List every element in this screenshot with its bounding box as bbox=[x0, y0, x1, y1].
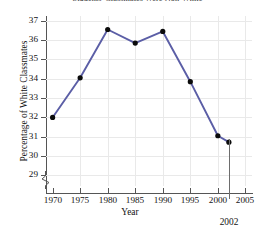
data-point-marker: 1980: 36.55 bbox=[105, 27, 110, 32]
y-axis-tick bbox=[41, 156, 46, 157]
series-polyline bbox=[53, 30, 229, 143]
y-axis-break-symbol bbox=[40, 170, 52, 190]
y-axis-tick-label: 35 bbox=[16, 54, 38, 63]
y-axis-tick bbox=[41, 117, 46, 118]
y-axis-tick bbox=[41, 98, 46, 99]
y-axis-tick-label: 36 bbox=[16, 35, 38, 44]
y-axis-tick bbox=[41, 79, 46, 80]
chart-title: Students' Classmates Were Non-White bbox=[0, 0, 275, 1]
y-axis-tick-label: 32 bbox=[16, 112, 38, 121]
y-axis-tick-label: 31 bbox=[16, 132, 38, 141]
x-axis-tick bbox=[163, 188, 164, 194]
x-axis-label: Year bbox=[95, 207, 165, 217]
data-series-line: 1970: 321975: 34.051980: 36.551985: 35.8… bbox=[46, 16, 252, 186]
year-2002-annotation-label: 2002 bbox=[209, 217, 249, 227]
data-point-marker: 1985: 35.85 bbox=[133, 40, 138, 45]
y-axis-tick-label: 37 bbox=[16, 16, 38, 25]
x-axis-tick bbox=[80, 188, 81, 194]
y-axis-tick-label: 29 bbox=[16, 170, 38, 179]
y-axis-tick bbox=[41, 21, 46, 22]
year-2002-marker-line bbox=[229, 139, 230, 199]
x-axis-line bbox=[46, 193, 253, 194]
x-axis-tick bbox=[108, 188, 109, 194]
x-axis-tick bbox=[245, 188, 246, 194]
chart-figure: Students' Classmates Were Non-White Perc… bbox=[0, 0, 275, 236]
plot-area: 1970: 321975: 34.051980: 36.551985: 35.8… bbox=[46, 16, 252, 186]
data-point-marker: 2000: 31.05 bbox=[215, 133, 220, 138]
x-axis-tick bbox=[135, 188, 136, 194]
data-point-marker: 1990: 36.45 bbox=[160, 29, 165, 34]
x-axis-tick bbox=[218, 188, 219, 194]
y-axis-tick-label: 34 bbox=[16, 74, 38, 83]
y-axis-tick-label: 30 bbox=[16, 151, 38, 160]
x-axis-tick-label: 2005 bbox=[227, 195, 263, 205]
x-axis-tick bbox=[190, 188, 191, 194]
x-axis-tick bbox=[53, 188, 54, 194]
data-point-marker: 1975: 34.05 bbox=[78, 75, 83, 80]
data-point-marker: 1995: 33.85 bbox=[188, 79, 193, 84]
y-axis-tick bbox=[41, 40, 46, 41]
y-axis-tick bbox=[41, 59, 46, 60]
data-point-marker: 1970: 32 bbox=[50, 115, 55, 120]
y-axis-tick-label: 33 bbox=[16, 93, 38, 102]
y-axis-tick bbox=[41, 137, 46, 138]
